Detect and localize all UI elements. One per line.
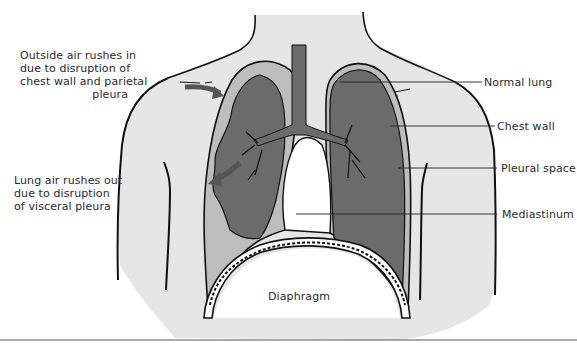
annotation-outside-air: Outside air rushes in due to disruption … bbox=[20, 49, 128, 101]
annotation-line: due to disruption of bbox=[20, 62, 128, 75]
label-diaphragm: Diaphragm bbox=[268, 290, 330, 303]
annotation-line: Outside air rushes in bbox=[20, 49, 128, 62]
label-pleural-space: Pleural space bbox=[501, 162, 576, 175]
pneumothorax-diagram: Outside air rushes in due to disruption … bbox=[0, 0, 577, 343]
annotation-line: of visceral pleura bbox=[14, 200, 122, 213]
annotation-lung-air: Lung air rushes out due to disruption of… bbox=[14, 174, 122, 213]
label-chest-wall: Chest wall bbox=[497, 120, 555, 133]
label-normal-lung: Normal lung bbox=[484, 76, 552, 89]
annotation-line: due to disruption bbox=[14, 187, 122, 200]
annotation-line: chest wall and parietal bbox=[20, 75, 128, 88]
annotation-line: Lung air rushes out bbox=[14, 174, 122, 187]
annotation-line: pleura bbox=[20, 88, 128, 101]
label-mediastinum: Mediastinum bbox=[502, 208, 574, 221]
